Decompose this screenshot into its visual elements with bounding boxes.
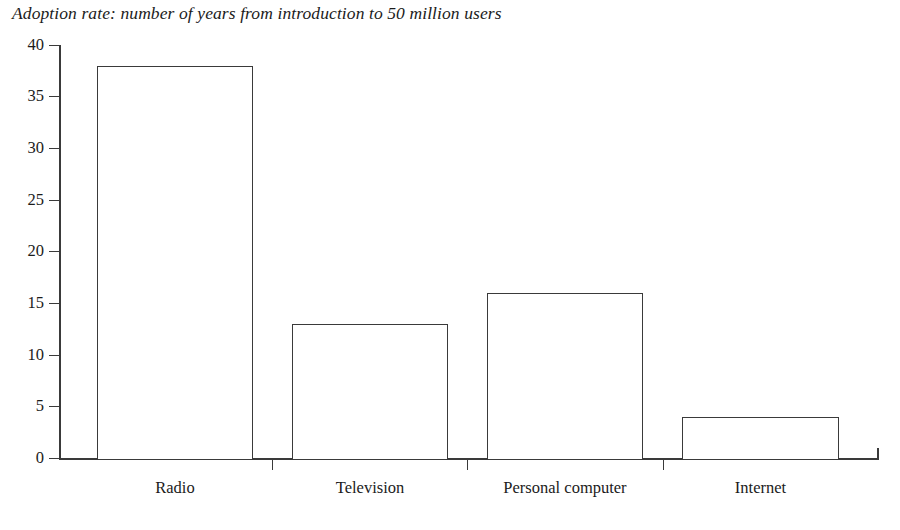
y-tick-label-15: 15 xyxy=(2,295,44,312)
x-axis-label-personal-computer: Personal computer xyxy=(487,478,643,498)
y-tick-label-20: 20 xyxy=(2,243,44,260)
y-axis-line xyxy=(59,45,61,460)
y-tick-label-5: 5 xyxy=(2,398,44,415)
bar-television[interactable] xyxy=(292,324,448,458)
y-tick-mark-15 xyxy=(49,303,60,304)
x-axis-label-television: Television xyxy=(292,478,448,498)
y-tick-label-0: 0 xyxy=(2,450,44,467)
chart-figure: Adoption rate: number of years from intr… xyxy=(0,0,900,530)
y-tick-label-30: 30 xyxy=(2,140,44,157)
y-tick-mark-5 xyxy=(49,406,60,407)
y-tick-mark-40 xyxy=(49,45,60,46)
y-tick-label-10: 10 xyxy=(2,347,44,364)
x-axis-separator-tick-1 xyxy=(272,459,273,470)
x-axis-end-cap xyxy=(877,448,879,459)
y-tick-mark-35 xyxy=(49,96,60,97)
bar-personal-computer[interactable] xyxy=(487,293,643,458)
bar-internet[interactable] xyxy=(682,417,839,458)
y-tick-mark-25 xyxy=(49,200,60,201)
y-tick-mark-30 xyxy=(49,148,60,149)
x-axis-separator-tick-3 xyxy=(663,459,664,470)
y-tick-mark-20 xyxy=(49,251,60,252)
y-tick-mark-0 xyxy=(49,458,60,459)
x-axis-label-radio: Radio xyxy=(97,478,253,498)
plot-area: 40 35 30 25 20 15 10 5 0 Radio Televisio… xyxy=(0,0,900,530)
y-tick-label-25: 25 xyxy=(2,192,44,209)
y-tick-label-35: 35 xyxy=(2,88,44,105)
y-tick-label-40: 40 xyxy=(2,37,44,54)
bar-radio[interactable] xyxy=(97,66,253,458)
x-axis-label-internet: Internet xyxy=(682,478,839,498)
y-tick-mark-10 xyxy=(49,355,60,356)
x-axis-separator-tick-2 xyxy=(467,459,468,470)
